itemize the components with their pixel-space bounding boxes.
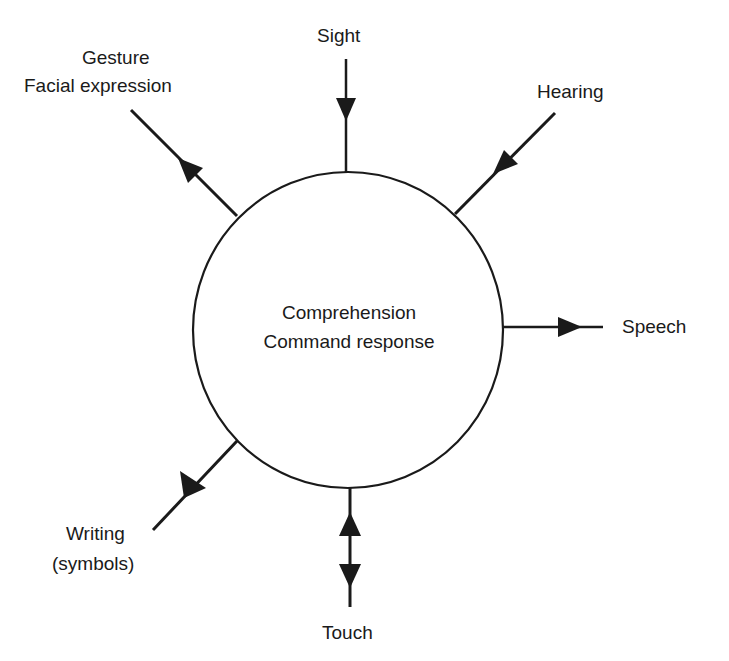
hearing-arrow xyxy=(455,113,555,214)
gesture-label: Gesture xyxy=(82,47,150,69)
center-label-line1: Comprehension xyxy=(238,298,460,327)
gesture-arrow xyxy=(131,110,237,216)
sight-label: Sight xyxy=(317,25,360,47)
gesture-label-line1: Gesture xyxy=(82,47,150,69)
writing-label-line1: Writing xyxy=(66,523,125,545)
writing-label-line2: (symbols) xyxy=(52,553,134,575)
sight-arrow xyxy=(336,59,356,172)
center-label-line2: Command response xyxy=(238,327,460,356)
speech-arrow xyxy=(503,317,603,337)
gesture-label-line2: Facial expression xyxy=(24,75,172,97)
hearing-label: Hearing xyxy=(537,81,604,103)
speech-label: Speech xyxy=(622,316,686,338)
touch-arrow xyxy=(339,488,361,607)
writing-arrow xyxy=(153,441,237,530)
touch-label: Touch xyxy=(322,622,373,644)
center-label: Comprehension Command response xyxy=(238,298,460,356)
